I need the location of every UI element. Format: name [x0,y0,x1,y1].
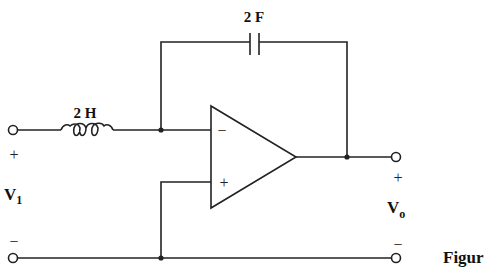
inductor [61,123,113,135]
output-minus-sign: − [393,236,402,253]
input-terminal-positive [9,126,18,135]
inductor-label: 2 H [74,105,97,121]
input-plus-sign: + [9,146,18,163]
capacitor-label: 2 F [244,9,264,25]
wire-feedback-right [259,42,347,157]
output-terminal-negative [392,254,401,263]
input-terminal-negative [9,254,18,263]
input-voltage-label: V1 [4,185,22,207]
output-plus-sign: + [393,169,402,186]
wire-noninverting-to-ground [161,182,211,258]
circuit-diagram: 2 H 2 F − + + V1 − + Vo − Figur [0,0,489,267]
output-voltage-label: Vo [387,198,405,221]
inverting-input-sign: − [217,122,226,139]
output-terminal-positive [392,153,401,162]
input-minus-sign: − [9,233,18,250]
figure-caption: Figur [443,248,484,267]
noninverting-input-sign: + [219,174,228,191]
junction-node [344,154,349,159]
junction-node [158,255,163,260]
wire-feedback-left [161,42,250,130]
